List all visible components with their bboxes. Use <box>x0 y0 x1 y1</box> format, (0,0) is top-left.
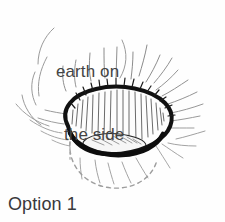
annotation-label-line-2: the side <box>64 124 124 145</box>
annotation-label-line-1: earth on <box>56 61 124 82</box>
sketch-figure: earth on the side Option 1 <box>0 0 225 222</box>
figure-caption-option-1: Option 1 <box>8 193 77 215</box>
annotation-label-earth-on-the-side: earth on the side <box>56 19 124 187</box>
